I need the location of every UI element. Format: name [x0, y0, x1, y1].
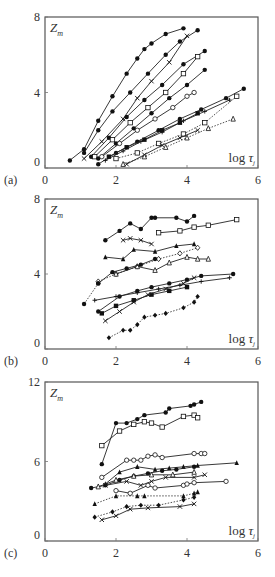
plot-frame [45, 17, 258, 168]
x-tick-label: 2 [113, 354, 119, 368]
y-tick-label: 8 [34, 10, 40, 24]
x-tick-label: 2 [113, 546, 119, 560]
panel-label: (a) [4, 173, 17, 187]
x-tick-label: 6 [255, 354, 261, 368]
y-tick-label: 4 [34, 267, 40, 281]
x-axis-label: log τj [229, 331, 256, 348]
x-axis-label: log τj [229, 523, 256, 540]
y-tick-label: 6 [34, 455, 40, 469]
x-tick-label: 4 [184, 546, 190, 560]
y-tick-label: 0 [34, 528, 40, 542]
x-tick-label: 2 [113, 173, 119, 187]
chart-panel-c: 02460612(c)Zmlog τj [4, 375, 261, 560]
figure-canvas: 0246048(a)Zmlog τj0246048(b)Zmlog τj0246… [0, 0, 275, 577]
chart-panel-b: 0246048(b)Zmlog τj [4, 192, 261, 368]
y-tick-label: 8 [34, 192, 40, 206]
chart-panel-a: 0246048(a)Zmlog τj [4, 10, 261, 187]
y-tick-label: 4 [34, 86, 40, 100]
x-tick-label: 4 [184, 354, 190, 368]
x-tick-label: 0 [42, 354, 48, 368]
plot-frame [45, 382, 258, 541]
y-tick-label: 0 [34, 336, 40, 350]
x-axis-label: log τj [229, 150, 256, 167]
x-tick-label: 6 [255, 546, 261, 560]
panel-label: (b) [4, 354, 18, 368]
panel-label: (c) [4, 546, 17, 560]
x-tick-label: 4 [184, 173, 190, 187]
x-tick-label: 0 [42, 173, 48, 187]
y-tick-label: 12 [28, 375, 40, 389]
x-tick-label: 0 [42, 546, 48, 560]
y-tick-label: 0 [34, 155, 40, 169]
x-tick-label: 6 [255, 173, 261, 187]
